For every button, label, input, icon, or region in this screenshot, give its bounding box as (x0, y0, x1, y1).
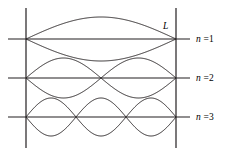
wave-curve-mode-n1-upper (26, 17, 176, 39)
mode-label-n3: n =3 (196, 112, 214, 122)
standing-wave-figure: L n =1 n =2 n =3 (0, 0, 229, 155)
mode-label-value: =2 (201, 73, 214, 83)
mode-label-value: =3 (201, 112, 214, 122)
mode-label-value: =1 (201, 34, 214, 44)
wave-curve-mode-n1-lower (26, 39, 176, 61)
wave-canvas (0, 0, 229, 155)
mode-label-n1: n =1 (196, 34, 214, 44)
wave-envelopes (26, 17, 176, 136)
length-label-L: L (163, 21, 168, 31)
mode-label-n2: n =2 (196, 73, 214, 83)
